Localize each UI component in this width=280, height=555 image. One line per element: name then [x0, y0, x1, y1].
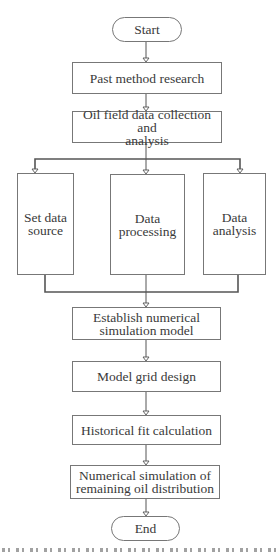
set-data-label-line2: source: [28, 224, 63, 237]
past-method-research-box: Past method research: [72, 62, 222, 94]
processing-label-line1: Data: [135, 212, 160, 225]
oil-field-label-line1: Oil field data collection and: [73, 108, 221, 134]
numerical-label-line2: remaining oil distribution: [76, 482, 214, 495]
end-label: End: [135, 522, 157, 535]
start-label: Start: [134, 23, 160, 36]
grid-label: Model grid design: [97, 370, 196, 383]
processing-label-line2: processing: [119, 225, 177, 238]
end-terminal: End: [111, 516, 180, 541]
start-terminal: Start: [112, 17, 182, 42]
establish-label-line2: simulation model: [99, 324, 193, 337]
remaining-oil-simulation-box: Numerical simulation of remaining oil di…: [70, 465, 220, 499]
historical-fit-box: Historical fit calculation: [72, 415, 221, 445]
establish-model-box: Establish numerical simulation model: [72, 307, 221, 340]
past-method-label: Past method research: [90, 72, 205, 85]
data-processing-box: Data processing: [110, 174, 185, 275]
set-data-source-box: Set data source: [17, 173, 74, 275]
historical-label: Historical fit calculation: [81, 424, 212, 437]
analysis-label-line2: analysis: [213, 224, 257, 237]
model-grid-design-box: Model grid design: [72, 361, 221, 392]
oil-field-data-box: Oil field data collection and analysis: [72, 111, 222, 143]
oil-field-label-line2: analysis: [125, 134, 169, 147]
data-analysis-box: Data analysis: [203, 173, 266, 275]
establish-label-line1: Establish numerical: [93, 311, 200, 324]
cropped-caption: [0, 548, 280, 555]
